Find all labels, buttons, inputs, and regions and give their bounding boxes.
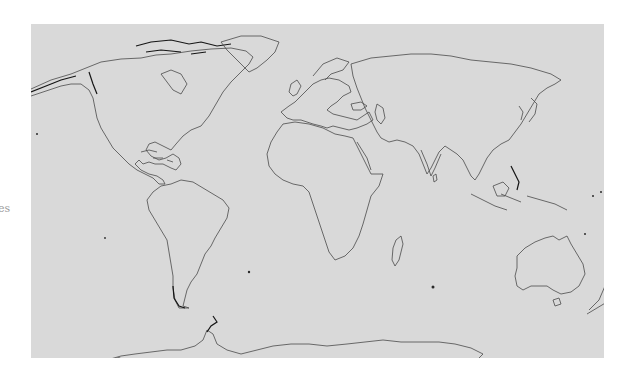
japan	[529, 98, 537, 122]
asia-coast	[351, 54, 561, 180]
coastline-map	[31, 24, 604, 358]
korea	[519, 106, 523, 120]
hudson-bay	[161, 70, 187, 94]
island	[584, 233, 586, 235]
alaska-coast	[31, 72, 97, 94]
north-america-coast	[31, 48, 253, 184]
philippines	[511, 166, 519, 190]
island	[592, 195, 594, 197]
madagascar	[392, 236, 403, 266]
antarctica-coast	[107, 330, 483, 358]
caribbean-islands	[141, 150, 173, 162]
tasmania	[553, 298, 561, 306]
world-map[interactable]	[31, 24, 604, 358]
island	[600, 191, 602, 193]
red-sea	[357, 142, 371, 170]
island	[432, 286, 435, 289]
sri-lanka	[433, 174, 437, 182]
antarctic-peninsula	[207, 316, 217, 332]
british-isles	[289, 80, 301, 96]
new-zealand	[587, 286, 604, 314]
africa-coast	[267, 122, 383, 260]
indonesia	[471, 194, 567, 210]
australia-coast	[515, 236, 585, 294]
clipped-label: es	[0, 202, 10, 215]
island	[36, 133, 38, 135]
caspian-sea	[375, 104, 385, 124]
island	[248, 271, 250, 273]
borneo	[493, 182, 509, 196]
scandinavia	[313, 58, 349, 80]
island	[104, 237, 106, 239]
south-america-coast	[147, 180, 229, 308]
